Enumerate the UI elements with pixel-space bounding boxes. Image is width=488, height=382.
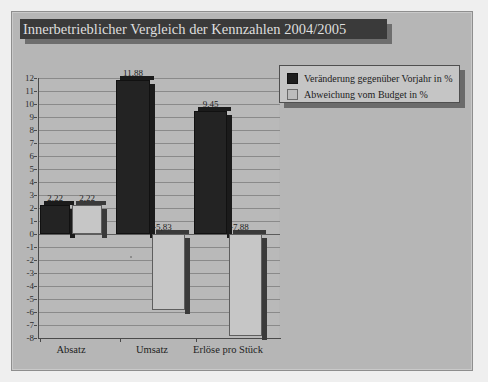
y-tick-label: -2 — [8, 256, 34, 265]
y-tick-mark — [34, 91, 37, 92]
y-tick-label: 6 — [8, 152, 34, 161]
bar-side-face — [262, 238, 267, 340]
y-tick-label: 12 — [8, 74, 34, 83]
x-axis-category-label: Umsatz — [136, 344, 168, 355]
y-tick-label: 1 — [8, 217, 34, 226]
gridline — [39, 143, 280, 144]
chart-title-text: Innerbetrieblicher Vergleich der Kennzah… — [23, 19, 403, 39]
bar-front-face — [116, 80, 150, 234]
legend-swatch-light-icon — [287, 89, 298, 100]
y-tick-label: 11 — [8, 87, 34, 96]
y-tick-mark — [34, 221, 37, 222]
gridline — [39, 182, 280, 183]
y-tick-mark — [34, 182, 37, 183]
y-tick-mark — [34, 156, 37, 157]
y-tick-label: -5 — [8, 295, 34, 304]
y-tick-mark — [34, 130, 37, 131]
bar-value-label: 2,22 — [47, 194, 63, 203]
y-tick-mark — [34, 247, 37, 248]
bar-erloese-abweichung[interactable] — [229, 234, 262, 336]
legend-swatch-dark-icon — [287, 73, 298, 84]
gridline — [39, 78, 280, 79]
gridline — [39, 91, 280, 92]
bar-side-face — [185, 238, 190, 314]
x-axis-line — [38, 338, 281, 339]
y-tick-label: 2 — [8, 204, 34, 213]
y-tick-label: -1 — [8, 243, 34, 252]
y-tick-label: 3 — [8, 191, 34, 200]
legend-label-abweichung: Abweichung vom Budget in % — [304, 89, 428, 100]
bar-absatz-veraenderung[interactable] — [40, 205, 70, 234]
bar-side-face — [102, 209, 107, 238]
x-tick-mark — [40, 338, 41, 342]
bar-front-face — [229, 234, 262, 336]
x-axis-category-label: Absatz — [56, 344, 85, 355]
y-tick-mark — [34, 169, 37, 170]
bar-value-label: 11,88 — [123, 69, 143, 78]
legend-item-abweichung[interactable]: Abweichung vom Budget in % — [287, 87, 428, 102]
y-tick-mark — [34, 117, 37, 118]
gridline — [39, 156, 280, 157]
bar-erloese-veraenderung[interactable] — [194, 111, 227, 234]
y-tick-label: 0 — [8, 230, 34, 239]
y-tick-label: 9 — [8, 113, 34, 122]
gridline — [39, 104, 280, 105]
chart-legend: Veränderung gegenüber Vorjahr in % Abwei… — [279, 65, 460, 103]
bar-umsatz-abweichung[interactable] — [152, 234, 185, 310]
y-tick-mark — [34, 234, 37, 235]
y-tick-label: -6 — [8, 308, 34, 317]
y-tick-label: 5 — [8, 165, 34, 174]
bar-value-label: -5,83 — [153, 223, 172, 232]
x-tick-mark — [120, 338, 121, 342]
y-tick-mark — [34, 208, 37, 209]
y-tick-mark — [34, 299, 37, 300]
y-tick-mark — [34, 104, 37, 105]
bar-front-face — [194, 111, 227, 234]
y-tick-label: -8 — [8, 334, 34, 343]
bar-front-face — [40, 205, 70, 234]
y-tick-mark — [34, 195, 37, 196]
y-tick-label: -4 — [8, 282, 34, 291]
x-axis-category-label: Erlöse pro Stück — [193, 344, 263, 355]
bar-side-face — [150, 84, 155, 238]
bar-umsatz-veraenderung[interactable] — [116, 80, 150, 234]
bar-absatz-abweichung[interactable] — [72, 205, 102, 234]
gridline — [39, 130, 280, 131]
y-tick-mark — [34, 78, 37, 79]
gridline — [39, 195, 280, 196]
bar-value-label: 2,22 — [79, 194, 95, 203]
bar-value-label: -7,88 — [230, 223, 249, 232]
y-tick-mark — [34, 286, 37, 287]
y-tick-label: -7 — [8, 321, 34, 330]
y-tick-mark — [34, 312, 37, 313]
y-tick-mark — [34, 143, 37, 144]
legend-item-veraenderung[interactable]: Veränderung gegenüber Vorjahr in % — [287, 71, 452, 86]
y-axis-labels: 1211109876543210-1-2-3-4-5-6-7-8 — [4, 78, 34, 338]
legend-label-veraenderung: Veränderung gegenüber Vorjahr in % — [304, 73, 452, 84]
gridline — [39, 117, 280, 118]
bar-front-face — [72, 205, 102, 234]
y-tick-label: 8 — [8, 126, 34, 135]
y-tick-label: 10 — [8, 100, 34, 109]
y-tick-mark — [34, 273, 37, 274]
y-tick-label: 4 — [8, 178, 34, 187]
bar-value-label: 9,45 — [203, 100, 219, 109]
scan-artifact — [130, 256, 132, 258]
y-tick-label: -3 — [8, 269, 34, 278]
y-tick-mark — [34, 260, 37, 261]
y-tick-label: 7 — [8, 139, 34, 148]
chart-root: Innerbetrieblicher Vergleich der Kennzah… — [0, 0, 488, 382]
bar-front-face — [152, 234, 185, 310]
gridline — [39, 169, 280, 170]
chart-title: Innerbetrieblicher Vergleich der Kennzah… — [20, 19, 390, 43]
y-tick-mark — [34, 325, 37, 326]
x-tick-mark — [196, 338, 197, 342]
y-tick-mark — [34, 338, 37, 339]
bar-side-face — [227, 115, 232, 238]
